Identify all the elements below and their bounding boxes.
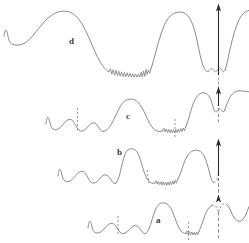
trace-c-group <box>46 87 249 138</box>
trace-label-c: c <box>126 112 130 121</box>
trace-a-serration <box>186 231 199 235</box>
trace-d-curve <box>4 11 109 72</box>
trace-a-dashed-peak-right <box>219 204 227 212</box>
trace-a-group <box>88 183 249 240</box>
trace-label-b: b <box>117 148 122 157</box>
trace-a-curve-peak2 <box>199 205 212 231</box>
trace-d-notch <box>208 68 225 72</box>
trace-a-curve-left <box>88 221 146 233</box>
traces-svg <box>0 0 249 243</box>
trace-b-curve-right <box>178 150 214 182</box>
trace-a-dashed-peak-top <box>212 205 219 212</box>
trace-c-serration <box>163 127 186 132</box>
trace-c-notch <box>214 108 224 112</box>
trace-d-curve-tail <box>225 10 249 70</box>
trace-c-curve-tail <box>224 91 249 111</box>
figure-canvas: d c b a <box>0 0 249 243</box>
trace-d-curve-right <box>151 12 209 72</box>
trace-a-curve-peak1 <box>146 203 186 234</box>
trace-label-d: d <box>69 37 74 46</box>
trace-d-serration <box>109 69 151 78</box>
trace-c-curve-peak <box>104 99 163 131</box>
trace-b-curve-left <box>58 169 116 183</box>
trace-a-arrow-head <box>216 195 221 203</box>
trace-a-curve-tail <box>226 204 249 221</box>
trace-d-group <box>4 4 249 89</box>
trace-b-serration <box>155 180 178 185</box>
trace-c-curve-left <box>46 117 104 131</box>
trace-b-group <box>58 139 221 197</box>
trace-label-a: a <box>156 216 161 225</box>
trace-c-curve-right <box>186 93 215 128</box>
